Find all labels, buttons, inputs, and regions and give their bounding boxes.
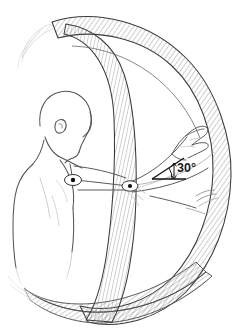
- angle-label: 30°: [177, 161, 196, 175]
- right-hand: [172, 126, 208, 160]
- elevation-angle-annotation: 30°: [152, 158, 196, 179]
- diagram-canvas: · · ·: [0, 0, 246, 333]
- shoulder-joint-marker: [65, 175, 82, 186]
- right-arm: [70, 137, 218, 214]
- elbow-joint-marker: [122, 181, 138, 191]
- range-of-motion-diagram: 30°: [0, 0, 246, 333]
- hemisphere-meridian-band: [64, 24, 136, 322]
- human-figure: [13, 91, 92, 286]
